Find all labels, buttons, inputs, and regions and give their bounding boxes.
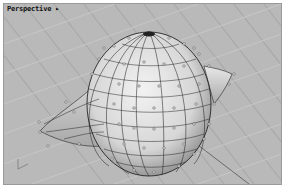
nurbs-surface-model[interactable] <box>4 4 281 184</box>
perspective-viewport[interactable]: Perspective ▸ <box>3 3 282 185</box>
surface-bulb <box>87 32 211 176</box>
viewport-title-label: Perspective <box>7 5 51 13</box>
viewport-title[interactable]: Perspective ▸ <box>7 5 59 13</box>
viewport-menu-arrow-icon[interactable]: ▸ <box>55 5 59 13</box>
surface-pole <box>143 32 155 37</box>
